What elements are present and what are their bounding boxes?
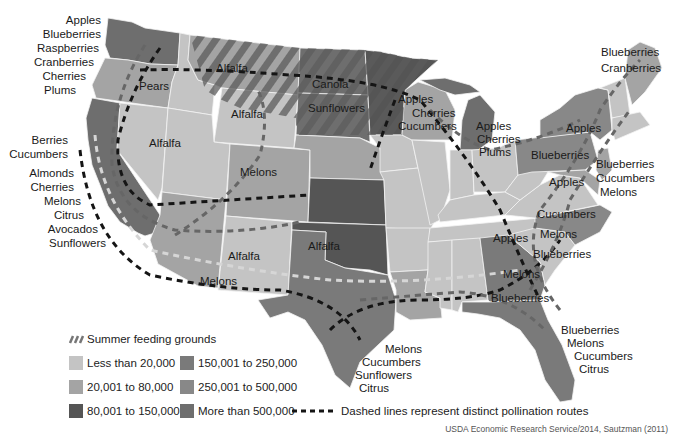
source-credit: USDA Economic Research Service/2014, Sau… [445,424,668,434]
legend-label-6: More than 500,000 [198,405,295,417]
label-me-1: Blueberries [601,46,659,58]
label-ga-blueberries: Blueberries [491,292,549,304]
label-va: Cucumbers [537,208,596,220]
label-tx-2: Cucumbers [362,356,421,368]
label-oregon: Pears [139,80,169,92]
label-ca-north-1: Berries [32,134,69,146]
pollination-map: Apples Blueberries Raspberries Cranberri… [0,0,675,438]
state-arkansas [386,228,430,272]
label-nm: Alfalfa [228,250,261,262]
legend-hatch-label: Summer feeding grounds [87,333,216,345]
label-tx-4: Citrus [359,382,389,394]
legend-swatch-4 [180,356,194,370]
legend-swatch-5 [180,380,194,394]
label-fl-3: Cucumbers [574,350,633,362]
label-az: Melons [200,275,237,287]
label-pnw-6: Plums [44,84,76,96]
state-washington [105,18,180,65]
state-kansas [308,178,386,225]
label-pnw-1: Apples [66,14,101,26]
label-ga-melons: Melons [503,268,540,280]
label-pnw-4: Cranberries [34,56,94,68]
label-pnw-3: Raspberries [37,42,99,54]
label-pnw-2: Blueberries [43,28,101,40]
label-pnw-5: Cherries [43,70,87,82]
label-montana: Alfalfa [216,62,249,74]
label-nevada: Alfalfa [149,137,182,149]
legend-label-2: 20,001 to 80,000 [87,381,173,393]
label-wi-3: Cucumbers [398,120,457,132]
label-mi-3: Plums [479,146,511,158]
label-nj-1: Blueberries [596,158,654,170]
label-mi-2: Cherries [477,133,521,145]
label-sc: Blueberries [533,248,591,260]
label-ok: Alfalfa [308,240,341,252]
label-ca-north-2: Cucumbers [9,148,68,160]
label-nc: Melons [540,228,577,240]
label-nj-2: Cucumbers [596,172,655,184]
legend-routes-label: Dashed lines represent distinct pollinat… [341,405,589,417]
label-ca-south-3: Melons [44,195,81,207]
label-fl-1: Blueberries [561,324,619,336]
label-sd: Sunflowers [308,102,365,114]
label-ca-south-6: Sunflowers [49,237,106,249]
label-pa: Blueberries [531,149,589,161]
label-wi-2: Cherries [412,107,456,119]
label-ca-south-5: Avocados [48,223,99,235]
label-fl-2: Melons [567,337,604,349]
label-mi-1: Apples [476,120,511,132]
legend-swatch-1 [69,356,83,370]
label-ca-south-1: Almonds [29,167,74,179]
legend-label-5: 250,001 to 500,000 [198,381,297,393]
label-va-area: Apples [549,176,584,188]
label-tx-3: Sunflowers [355,369,412,381]
label-nj-3: Melons [600,186,637,198]
label-tx-1: Melons [385,343,422,355]
label-fl-4: Citrus [579,363,609,375]
label-nd: Canola [312,78,349,90]
label-ca-south-4: Citrus [54,209,84,221]
label-wi-1: Apples [398,93,433,105]
state-florida [462,300,575,402]
label-me-2: Cranberries [601,62,661,74]
legend-hatch-swatch [70,336,83,343]
label-idaho-wy: Alfalfa [231,108,264,120]
label-colorado: Melons [240,166,277,178]
legend-label-1: Less than 20,000 [87,357,175,369]
legend-swatch-2 [69,380,83,394]
legend-swatch-3 [69,404,83,418]
label-ny: Apples [566,122,601,134]
legend-swatch-6 [180,404,194,418]
label-tn: Apples [493,232,528,244]
label-ca-south-2: Cherries [31,181,75,193]
legend-label-4: 150,001 to 250,000 [198,357,297,369]
state-indiana [450,150,474,200]
legend-label-3: 80,001 to 150,000 [87,405,180,417]
